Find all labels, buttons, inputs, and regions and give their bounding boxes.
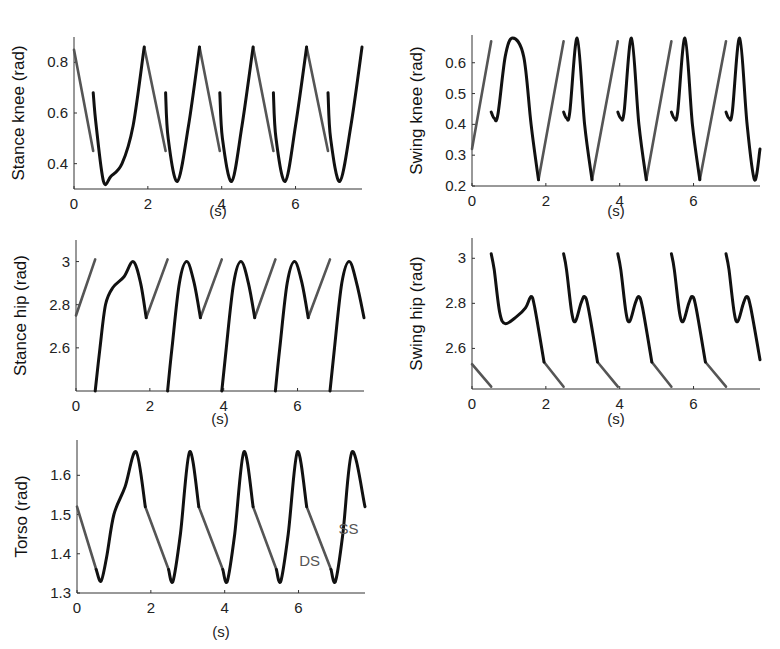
x-tick-label: 6 xyxy=(294,599,302,616)
y-tick-label: 0.5 xyxy=(445,85,466,102)
double-support-line xyxy=(646,41,671,180)
double-support-line xyxy=(539,41,564,180)
single-support-line xyxy=(564,38,592,180)
x-tick-label: 6 xyxy=(293,397,301,414)
x-tick-label: 0 xyxy=(468,192,476,209)
single-support-line xyxy=(671,38,699,180)
x-axis-label: (s) xyxy=(211,410,229,427)
x-tick-label: 2 xyxy=(542,395,550,412)
double-support-line xyxy=(472,364,491,387)
double-support-line xyxy=(472,41,491,149)
y-tick-label: 0.4 xyxy=(445,115,466,132)
single-support-line xyxy=(166,47,200,181)
y-axis-label: Swing hip (rad) xyxy=(407,256,426,370)
double-support-line xyxy=(598,362,618,387)
single-support-line xyxy=(220,47,253,181)
single-support-line xyxy=(726,254,760,360)
single-support-line xyxy=(491,254,544,362)
x-tick-label: 2 xyxy=(146,397,154,414)
single-support-line xyxy=(491,38,538,180)
single-support-line xyxy=(222,262,255,391)
double-support-line xyxy=(200,259,221,317)
x-axis-label: (s) xyxy=(209,202,227,219)
single-support-line xyxy=(330,262,364,391)
single-support-line xyxy=(328,47,362,181)
single-support-line xyxy=(618,254,652,362)
annotation-ds: DS xyxy=(299,552,320,569)
axis-lines xyxy=(77,440,365,593)
axis-lines xyxy=(472,238,760,389)
double-support-line xyxy=(144,47,165,151)
y-tick-label: 1.5 xyxy=(50,506,71,523)
x-tick-label: 6 xyxy=(689,395,697,412)
subplot-swing-knee: 02460.20.30.40.50.6(s)Swing knee (rad) xyxy=(407,35,760,219)
subplot-torso: 02461.31.41.51.6(s)Torso (rad)DSSS xyxy=(12,440,365,640)
x-tick-label: 2 xyxy=(144,195,152,212)
double-support-line xyxy=(76,259,95,315)
double-support-line xyxy=(199,507,223,570)
y-tick-label: 0.8 xyxy=(47,53,68,70)
single-support-line xyxy=(169,452,199,583)
y-tick-label: 3 xyxy=(62,253,70,270)
double-support-line xyxy=(145,507,168,570)
y-tick-label: 2.6 xyxy=(49,339,70,356)
y-tick-label: 1.6 xyxy=(50,466,71,483)
figure: 02460.40.60.8(s)Stance knee (rad)02460.2… xyxy=(0,0,780,649)
x-tick-label: 6 xyxy=(291,195,299,212)
double-support-line xyxy=(253,507,276,570)
double-support-line xyxy=(200,47,220,151)
subplot-stance-hip: 02462.62.83(s)Stance hip (rad) xyxy=(11,240,364,427)
double-support-line xyxy=(253,47,273,151)
x-tick-label: 2 xyxy=(147,599,155,616)
y-tick-label: 0.2 xyxy=(445,177,466,194)
subplot-swing-hip: 02462.62.83(s)Swing hip (rad) xyxy=(407,238,760,427)
double-support-line xyxy=(307,47,328,151)
single-support-line xyxy=(96,452,145,582)
single-support-line xyxy=(95,262,146,391)
double-support-line xyxy=(308,259,330,317)
double-support-line xyxy=(146,259,167,317)
x-axis-label: (s) xyxy=(607,410,625,427)
x-tick-label: 0 xyxy=(72,397,80,414)
single-support-line xyxy=(618,38,647,180)
x-tick-label: 0 xyxy=(73,599,81,616)
y-tick-label: 0.4 xyxy=(47,155,68,172)
single-support-line xyxy=(223,452,253,583)
annotation-ss: SS xyxy=(338,520,358,537)
y-axis-label: Torso (rad) xyxy=(12,475,31,557)
x-tick-label: 0 xyxy=(70,195,78,212)
single-support-line xyxy=(93,47,144,184)
single-support-line xyxy=(331,452,365,583)
double-support-line xyxy=(592,41,618,180)
single-support-line xyxy=(273,47,306,181)
y-tick-label: 2.8 xyxy=(445,294,466,311)
x-tick-label: 2 xyxy=(542,192,550,209)
double-support-line xyxy=(255,259,276,317)
y-tick-label: 0.6 xyxy=(445,54,466,71)
y-tick-label: 2.6 xyxy=(445,339,466,356)
y-tick-label: 2.8 xyxy=(49,296,70,313)
double-support-line xyxy=(74,50,93,151)
y-tick-label: 1.3 xyxy=(50,584,71,601)
y-tick-label: 3 xyxy=(458,249,466,266)
y-axis-label: Stance knee (rad) xyxy=(9,45,28,180)
y-tick-label: 0.6 xyxy=(47,104,68,121)
y-axis-label: Stance hip (rad) xyxy=(11,255,30,376)
single-support-line xyxy=(671,254,705,362)
double-support-line xyxy=(700,41,726,180)
y-axis-label: Swing knee (rad) xyxy=(407,46,426,175)
double-support-line xyxy=(705,362,726,387)
axis-lines xyxy=(74,37,362,189)
x-tick-label: 6 xyxy=(689,192,697,209)
single-support-line xyxy=(275,262,308,391)
subplot-stance-knee: 02460.40.60.8(s)Stance knee (rad) xyxy=(9,37,362,219)
double-support-line xyxy=(544,362,564,387)
single-support-line xyxy=(726,38,760,180)
double-support-line xyxy=(77,507,96,570)
x-axis-label: (s) xyxy=(607,202,625,219)
single-support-line xyxy=(564,254,598,362)
double-support-line xyxy=(652,362,672,387)
x-tick-label: 4 xyxy=(221,599,229,616)
y-tick-label: 1.4 xyxy=(50,545,71,562)
single-support-line xyxy=(168,262,201,391)
